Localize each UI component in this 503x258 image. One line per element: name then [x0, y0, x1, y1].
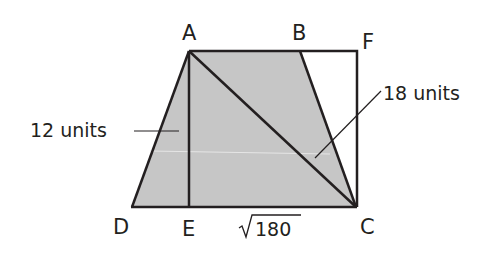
vertex-label-a: A [182, 21, 197, 45]
measure-label-ac: 18 units [383, 82, 460, 104]
vertex-label-f: F [362, 30, 374, 54]
vertex-label-c: C [360, 215, 375, 239]
radicand-text: 180 [255, 218, 291, 240]
measure-label-ae: 12 units [30, 119, 107, 141]
vertex-label-b: B [292, 21, 306, 45]
vertex-label-d: D [113, 215, 129, 239]
measure-label-ec: 180 [239, 215, 301, 240]
trapezoid-diagram: A B F D E C 12 units 18 units 180 [0, 0, 503, 258]
shaded-trapezoid-abcd [132, 51, 355, 207]
vertex-label-e: E [182, 217, 195, 241]
